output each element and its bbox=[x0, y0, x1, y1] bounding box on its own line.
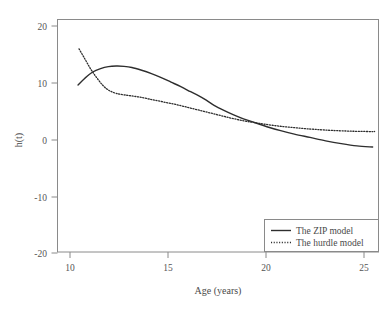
x-tick-label: 15 bbox=[163, 263, 173, 273]
y-tick-label: 0 bbox=[42, 136, 47, 146]
y-tick-label: 20 bbox=[38, 22, 48, 32]
x-axis-tick-labels: 10 15 20 25 bbox=[65, 263, 369, 273]
data-series-layer bbox=[78, 49, 375, 147]
x-axis-title: Age (years) bbox=[195, 285, 242, 297]
y-axis-title: h(t) bbox=[13, 133, 25, 147]
y-axis-tick-labels: 20 10 0 -10 -20 bbox=[34, 22, 47, 259]
series-zip-line bbox=[78, 66, 373, 147]
y-axis-ticks bbox=[52, 26, 58, 253]
x-tick-label: 20 bbox=[261, 263, 271, 273]
y-tick-label: -10 bbox=[34, 193, 47, 203]
legend: The ZIP model The hurdle model bbox=[265, 220, 379, 252]
legend-label-hurdle: The hurdle model bbox=[296, 238, 364, 248]
x-tick-label: 10 bbox=[65, 263, 75, 273]
chart-figure: 10 15 20 25 20 10 0 -10 -20 Age (years) … bbox=[0, 0, 391, 311]
plot-frame bbox=[58, 20, 379, 253]
plot-canvas: 10 15 20 25 20 10 0 -10 -20 Age (years) … bbox=[0, 0, 391, 311]
series-hurdle-line bbox=[79, 49, 375, 132]
x-tick-label: 25 bbox=[359, 263, 369, 273]
legend-label-zip: The ZIP model bbox=[296, 226, 354, 236]
y-tick-label: 10 bbox=[38, 79, 48, 89]
y-tick-label: -20 bbox=[34, 249, 47, 259]
x-axis-ticks bbox=[70, 252, 364, 258]
